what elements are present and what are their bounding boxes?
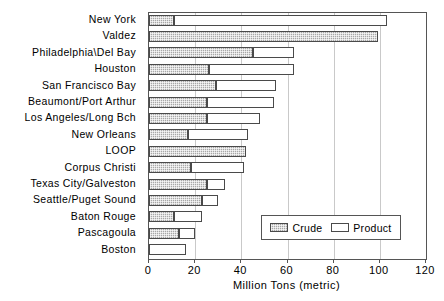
bar-segment-product — [207, 97, 274, 108]
bar-row — [149, 243, 426, 258]
bar-chart: New YorkValdezPhiladelphia\Del BayHousto… — [0, 0, 444, 301]
bar-segment-product — [149, 244, 186, 255]
bar-segment-product — [179, 228, 195, 239]
category-label: Valdez — [103, 28, 136, 43]
tick-mark — [194, 259, 195, 263]
value-axis: 020406080100120 — [148, 259, 427, 281]
bar-segment-crude — [149, 228, 179, 239]
bar-segment-crude — [149, 162, 191, 173]
chart-legend: CrudeProduct — [261, 215, 401, 240]
category-label: Texas City/Galveston — [30, 176, 136, 191]
bar-row — [149, 128, 426, 143]
bar-segment-product — [209, 64, 294, 75]
bar-segment-product — [191, 162, 244, 173]
bar-row — [149, 13, 426, 28]
tick-label: 0 — [145, 264, 152, 276]
x-axis-title: Million Tons (metric) — [148, 279, 425, 291]
legend-swatch-crude — [270, 223, 288, 232]
bar-segment-crude — [149, 129, 188, 140]
bar-segment-product — [174, 211, 202, 222]
bar-row — [149, 111, 426, 126]
category-label: Houston — [94, 61, 136, 76]
tick-mark — [148, 259, 149, 263]
bar-row — [149, 177, 426, 192]
bar-segment-product — [216, 80, 276, 91]
category-label: Seattle/Puget Sound — [33, 192, 136, 207]
category-label: New Orleans — [71, 127, 136, 142]
legend-label: Crude — [292, 222, 322, 234]
bar-row — [149, 29, 426, 44]
bar-segment-crude — [149, 211, 174, 222]
bar-segment-product — [202, 195, 218, 206]
legend-label: Product — [353, 222, 391, 234]
bar-segment-crude — [149, 113, 207, 124]
bar-segment-crude — [149, 97, 207, 108]
category-label: LOOP — [105, 143, 136, 158]
bar-row — [149, 79, 426, 94]
bar-segment-product — [207, 113, 260, 124]
category-label: Beaumont/Port Arthur — [28, 94, 136, 109]
tick-mark — [379, 259, 380, 263]
bar-row — [149, 161, 426, 176]
category-axis: New YorkValdezPhiladelphia\Del BayHousto… — [0, 12, 141, 258]
bar-segment-crude — [149, 179, 207, 190]
category-label: New York — [89, 12, 136, 27]
category-label: San Francisco Bay — [42, 78, 136, 93]
tick-label: 40 — [234, 264, 247, 276]
bar-segment-product — [188, 129, 248, 140]
tick-mark — [425, 259, 426, 263]
tick-mark — [333, 259, 334, 263]
legend-swatch-product — [331, 223, 349, 232]
bar-segment-crude — [149, 146, 246, 157]
bar-segment-crude — [149, 80, 216, 91]
category-label: Boston — [101, 242, 136, 257]
bar-segment-crude — [149, 47, 253, 58]
legend-entry: Crude — [270, 222, 322, 234]
category-label: Corpus Christi — [65, 160, 136, 175]
bar-segment-crude — [149, 31, 378, 42]
category-label: Los Angeles/Long Bch — [25, 110, 137, 125]
tick-mark — [240, 259, 241, 263]
category-label: Philadelphia\Del Bay — [32, 45, 136, 60]
bar-row — [149, 46, 426, 61]
bar-row — [149, 95, 426, 110]
tick-label: 20 — [188, 264, 201, 276]
tick-label: 80 — [326, 264, 339, 276]
tick-label: 120 — [415, 264, 435, 276]
bar-row — [149, 144, 426, 159]
bar-segment-crude — [149, 195, 202, 206]
tick-mark — [287, 259, 288, 263]
bar-segment-product — [253, 47, 295, 58]
bar-segment-product — [207, 179, 225, 190]
category-label: Pascagoula — [78, 225, 136, 240]
legend-entry: Product — [331, 222, 391, 234]
tick-label: 60 — [280, 264, 293, 276]
bar-row — [149, 62, 426, 77]
bar-segment-crude — [149, 15, 174, 26]
category-label: Baton Rouge — [71, 209, 136, 224]
bar-row — [149, 193, 426, 208]
bar-segment-crude — [149, 64, 209, 75]
tick-label: 100 — [369, 264, 389, 276]
bar-segment-product — [174, 15, 386, 26]
